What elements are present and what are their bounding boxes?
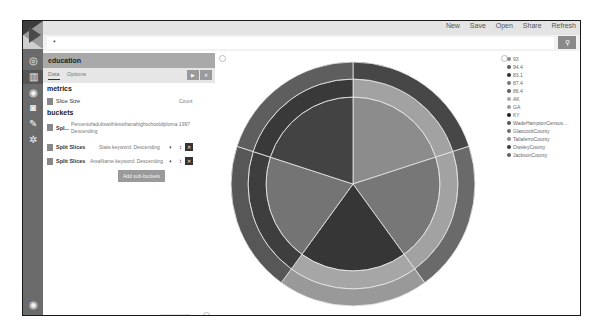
legend-color-icon: [507, 145, 511, 149]
toggle-icon[interactable]: [47, 158, 53, 165]
new-button[interactable]: New: [446, 22, 460, 29]
top-bar: New Save Open Share Refresh: [43, 21, 580, 35]
legend-color-icon: [507, 137, 511, 141]
legend-item[interactable]: 93: [507, 55, 581, 63]
metric-label: Slice Size: [56, 98, 80, 104]
legend-label: KY: [513, 112, 520, 118]
toggle-visibility-icon[interactable]: ◐: [169, 158, 173, 164]
toggle-visibility-icon[interactable]: ◐: [169, 144, 173, 150]
search-button[interactable]: ⚲: [558, 36, 576, 49]
discard-changes-button[interactable]: ✕: [200, 70, 212, 80]
legend-item[interactable]: 83.1: [507, 71, 581, 79]
search-icon: ⚲: [565, 39, 570, 46]
legend-label: JacksonCounty: [513, 152, 547, 158]
refresh-button[interactable]: Refresh: [551, 22, 576, 29]
legend-label: OwsleyCounty: [513, 144, 545, 150]
reorder-icon[interactable]: ↕: [179, 144, 182, 150]
legend-color-icon: [507, 97, 511, 101]
toggle-icon[interactable]: [47, 124, 53, 131]
apply-changes-button[interactable]: ▶: [187, 70, 199, 80]
legend-item[interactable]: JacksonCounty: [507, 151, 581, 159]
legend-item[interactable]: GlascockCounty: [507, 127, 581, 135]
remove-icon[interactable]: ✕: [185, 157, 193, 165]
discover-icon[interactable]: ◎: [26, 54, 40, 68]
settings-icon[interactable]: ✲: [26, 133, 40, 147]
legend-color-icon: [507, 105, 511, 109]
search-row: * ⚲: [43, 35, 580, 51]
legend-color-icon: [507, 121, 511, 125]
tab-options[interactable]: Options: [67, 71, 86, 77]
collapse-icon[interactable]: ◉: [26, 298, 40, 312]
legend-label: 83.1: [513, 72, 523, 78]
toggle-icon[interactable]: [47, 98, 53, 105]
bucket-row[interactable]: Split Slices AreaName.keyword: Descendin…: [47, 157, 212, 169]
legend-label: WadeHamptonCensus...: [513, 120, 567, 126]
open-button[interactable]: Open: [496, 22, 513, 29]
legend-item[interactable]: TaliaferroCounty: [507, 135, 581, 143]
bucket-label: Split Slices: [56, 144, 85, 150]
legend-color-icon: [507, 65, 511, 69]
legend-item[interactable]: 87.4: [507, 79, 581, 87]
metrics-title: metrics: [47, 85, 72, 92]
timelion-icon[interactable]: ◙: [26, 101, 40, 115]
pie-chart[interactable]: [221, 53, 491, 315]
buckets-title: buckets: [47, 109, 73, 116]
legend-item[interactable]: OwsleyCounty: [507, 143, 581, 151]
save-button[interactable]: Save: [470, 22, 486, 29]
legend-color-icon: [507, 73, 511, 77]
kibana-logo[interactable]: [23, 21, 43, 49]
resize-handle-icon[interactable]: [203, 312, 210, 316]
bucket-label: Spl...: [56, 125, 69, 131]
search-input[interactable]: *: [47, 37, 554, 49]
legend-color-icon: [507, 129, 511, 133]
toggle-icon[interactable]: [47, 144, 53, 151]
legend-color-icon: [507, 113, 511, 117]
top-nav: New Save Open Share Refresh: [438, 22, 576, 29]
legend-label: AK: [513, 96, 520, 102]
metric-value: Count: [179, 98, 192, 104]
share-button[interactable]: Share: [523, 22, 542, 29]
legend-label: 93: [513, 56, 519, 62]
legend-label: GA: [513, 104, 520, 110]
legend-color-icon: [507, 57, 511, 61]
tab-data[interactable]: Data: [48, 71, 60, 80]
legend-item[interactable]: AK: [507, 95, 581, 103]
legend: 9394.483.187.486.4AKGAKYWadeHamptonCensu…: [507, 55, 581, 159]
bucket-label: Split Slices: [56, 158, 85, 164]
sidebar: ◎ ▥ ◉ ◙ ✎ ✲ ◉: [23, 21, 43, 315]
legend-label: TaliaferroCounty: [513, 136, 549, 142]
remove-icon[interactable]: ✕: [185, 143, 193, 151]
legend-label: 87.4: [513, 80, 523, 86]
visualize-icon[interactable]: ▥: [23, 70, 43, 84]
legend-label: 94.4: [513, 64, 523, 70]
metric-row[interactable]: Slice Size Count: [47, 97, 212, 109]
bucket-desc: State.keyword: Descending: [99, 144, 160, 150]
bucket-order: Descending: [71, 128, 97, 134]
legend-color-icon: [507, 81, 511, 85]
editor-panel: education Data Options ▶ ✕ metrics Slice…: [43, 53, 215, 315]
bucket-row[interactable]: Split Slices State.keyword: Descending ◐…: [47, 143, 212, 155]
legend-item[interactable]: WadeHamptonCensus...: [507, 119, 581, 127]
panel-tabs: Data Options ▶ ✕: [43, 68, 215, 83]
legend-color-icon: [507, 89, 511, 93]
reorder-icon[interactable]: ↕: [179, 158, 182, 164]
legend-item[interactable]: GA: [507, 103, 581, 111]
bucket-desc: Percentofadultswithlessthanahighschooldi…: [71, 121, 190, 127]
legend-item[interactable]: 86.4: [507, 87, 581, 95]
kibana-window: ◎ ▥ ◉ ◙ ✎ ✲ ◉ New Save Open Share Refres…: [22, 20, 581, 316]
index-pattern-title: education: [43, 53, 215, 68]
add-sub-buckets-button[interactable]: Add sub-buckets: [118, 170, 165, 182]
dashboard-icon[interactable]: ◉: [26, 86, 40, 100]
legend-item[interactable]: KY: [507, 111, 581, 119]
legend-label: GlascockCounty: [513, 128, 549, 134]
legend-color-icon: [507, 153, 511, 157]
legend-item[interactable]: 94.4: [507, 63, 581, 71]
panel-scrollbar[interactable]: [160, 314, 190, 316]
bucket-desc: AreaName.keyword: Descending: [90, 158, 163, 164]
devtools-icon[interactable]: ✎: [26, 117, 40, 131]
bucket-row[interactable]: Spl... Percentofadultswithlessthanahighs…: [47, 121, 212, 139]
legend-label: 86.4: [513, 88, 523, 94]
